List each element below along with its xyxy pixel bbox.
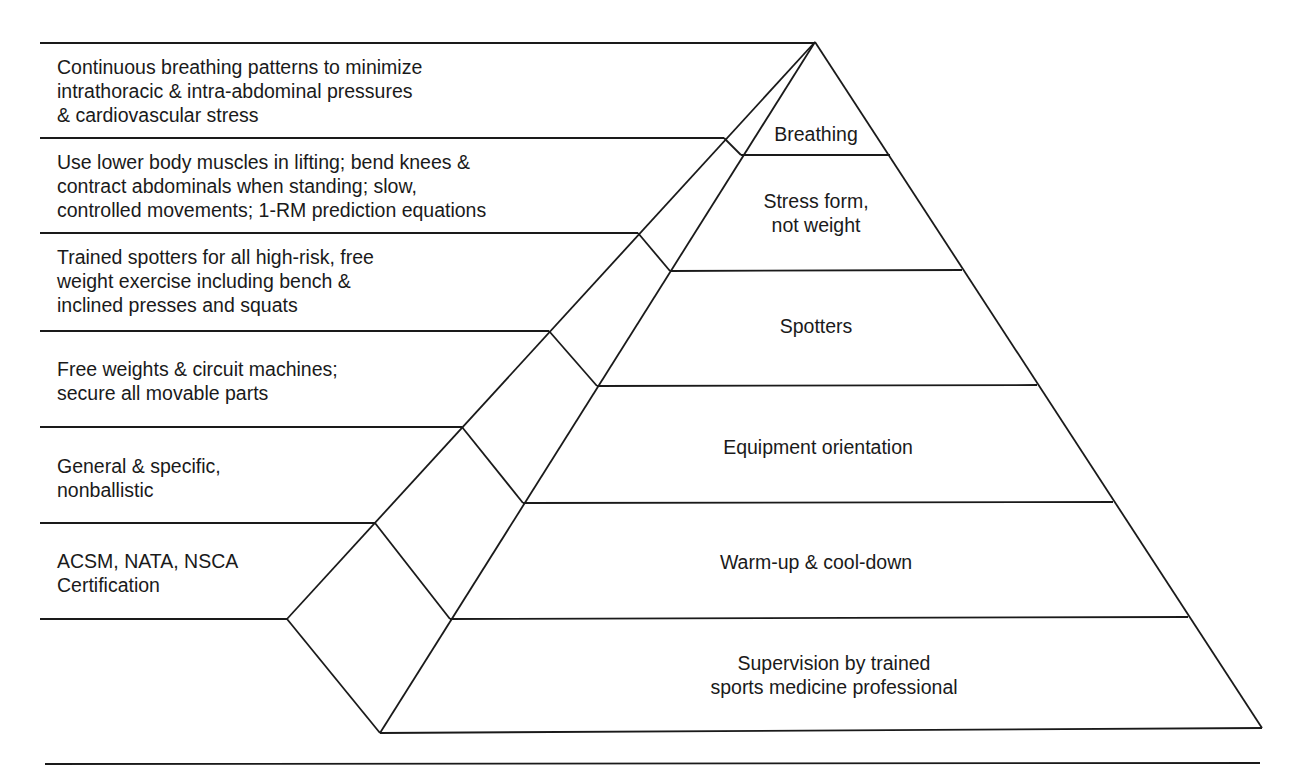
- tier-equipment-orientation: Equipment orientation: [723, 435, 913, 459]
- description-spotters: Trained spotters for all high-risk, free…: [57, 245, 374, 317]
- description-breathing: Continuous breathing patterns to minimiz…: [57, 55, 422, 127]
- tier-stress-form: Stress form, not weight: [763, 189, 868, 237]
- description-supervision: ACSM, NATA, NSCA Certification: [57, 549, 238, 597]
- tier-breathing: Breathing: [774, 122, 857, 146]
- description-equipment: Free weights & circuit machines; secure …: [57, 357, 338, 405]
- pyramid-base: [380, 728, 1262, 733]
- description-warm-up: General & specific, nonballistic: [57, 454, 221, 502]
- tier-warm-up: Warm-up & cool-down: [720, 550, 912, 574]
- tier-supervision: Supervision by trained sports medicine p…: [710, 651, 957, 699]
- tier-divider: [450, 617, 1188, 619]
- tier-spotters: Spotters: [780, 314, 853, 338]
- bottom-rule: [45, 763, 1260, 764]
- pyramid-front-edge: [380, 42, 815, 733]
- tier-divider: [670, 270, 962, 271]
- description-stress-form: Use lower body muscles in lifting; bend …: [57, 150, 486, 222]
- tier-divider: [597, 385, 1037, 386]
- tier-divider: [523, 502, 1113, 503]
